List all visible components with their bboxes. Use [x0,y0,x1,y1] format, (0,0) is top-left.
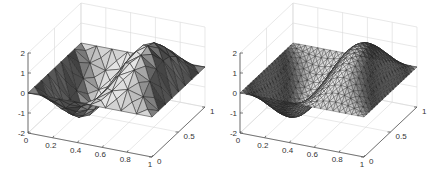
z-tick-label: -1 [230,109,238,118]
figure: -2-101200.20.40.60.8100.51 -2-101200.20.… [0,0,435,171]
x-tick-label: 0.2 [257,141,269,150]
x-tick-label: 0 [236,136,241,145]
y-tick-label: 0.5 [396,132,408,141]
x-tick-label: 0.4 [282,146,294,155]
y-tick-label: 1 [422,107,427,116]
x-tick-label: 0.6 [307,150,319,159]
x-tick-label: 1 [360,160,365,169]
z-tick-label: 0 [233,89,238,98]
surface-plot-fine: -2-101200.20.40.60.8100.51 [0,0,435,171]
z-tick-label: 1 [233,69,238,78]
y-tick-label: 0 [369,157,374,166]
z-tick-label: 2 [233,49,238,58]
x-tick-label: 0.8 [332,155,344,164]
